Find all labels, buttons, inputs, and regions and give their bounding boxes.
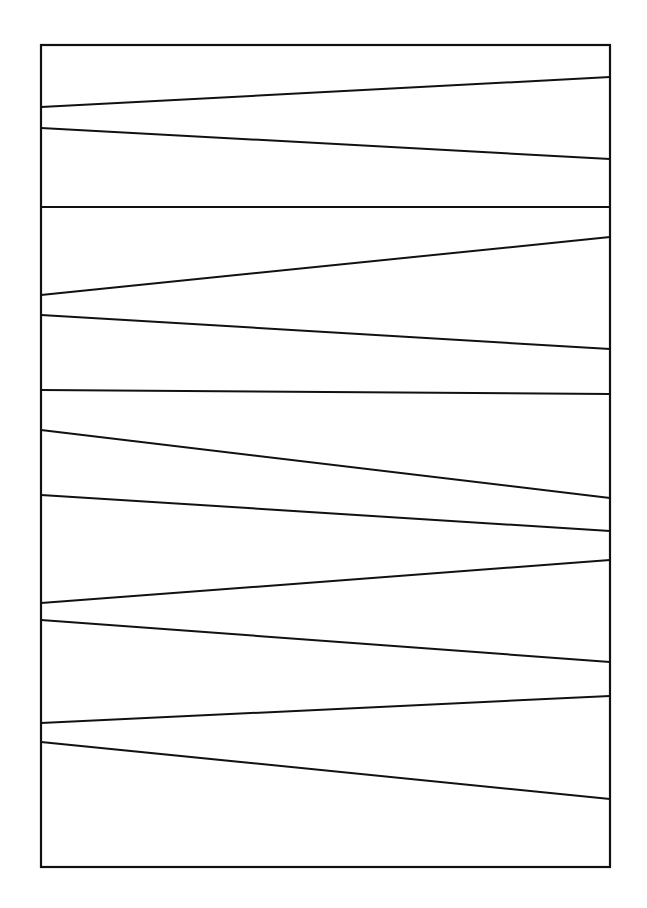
line-1 [41,77,610,107]
line-4 [41,237,610,295]
line-11 [41,696,610,723]
line-8 [41,495,610,531]
diagonal-lines-group [41,77,610,799]
line-2 [41,128,610,159]
line-12 [41,742,610,799]
line-6 [41,390,610,394]
line-7 [41,430,610,498]
diagram-canvas [0,0,647,908]
line-9 [41,560,610,603]
line-5 [41,315,610,349]
frame-rectangle [41,45,610,867]
line-10 [41,620,610,662]
